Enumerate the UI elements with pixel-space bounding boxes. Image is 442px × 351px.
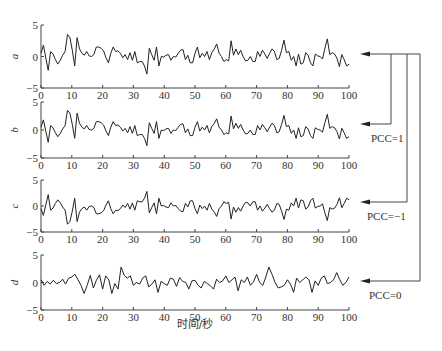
series-line-b (41, 110, 349, 145)
x-tick-label: 40 (159, 89, 171, 101)
x-tick-label: 90 (313, 159, 325, 171)
x-tick-label: 40 (159, 233, 171, 245)
y-tick-label: 0 (33, 277, 39, 289)
y-tick-label: 5 (33, 249, 39, 261)
y-tick-label: 5 (33, 174, 39, 186)
x-tick-label: 0 (38, 311, 44, 323)
pcc-label-1: PCC=1 (371, 132, 404, 144)
y-tick-label: −5 (26, 226, 38, 238)
x-tick-label: 80 (282, 89, 294, 101)
x-axis-title: 时间/秒 (177, 317, 214, 331)
x-tick-label: 40 (159, 311, 171, 323)
pcc-comparison-figure: 50−50102030405060708090100a50−5010203040… (0, 0, 442, 351)
panel-d: 50−50102030405060708090100d (8, 249, 358, 323)
x-tick-label: 10 (66, 311, 78, 323)
arrow-icon (360, 52, 370, 57)
x-tick-label: 90 (313, 89, 325, 101)
series-line-d (41, 267, 349, 293)
x-tick-label: 90 (313, 311, 325, 323)
panel-c: 50−50102030405060708090100c (8, 174, 358, 245)
panel-a: 50−50102030405060708090100a (8, 19, 358, 101)
x-tick-label: 100 (341, 159, 358, 171)
x-tick-label: 100 (341, 311, 358, 323)
x-tick-label: 80 (282, 159, 294, 171)
panel-label-d: d (8, 279, 20, 285)
panel-b: 50−50102030405060708090100b (8, 96, 358, 171)
x-tick-label: 100 (341, 233, 358, 245)
x-tick-label: 80 (282, 233, 294, 245)
x-tick-label: 60 (220, 311, 232, 323)
x-tick-label: 60 (220, 89, 232, 101)
x-tick-label: 40 (159, 159, 171, 171)
x-tick-label: 20 (97, 311, 109, 323)
arrow-icon (360, 122, 370, 127)
x-tick-label: 60 (220, 233, 232, 245)
x-tick-label: 100 (341, 89, 358, 101)
y-tick-label: −5 (26, 304, 38, 316)
x-tick-label: 20 (97, 233, 109, 245)
arrow-icon (360, 200, 370, 205)
y-tick-label: 0 (33, 200, 39, 212)
y-tick-label: 5 (33, 19, 39, 31)
x-tick-label: 0 (38, 89, 44, 101)
pcc-label-2: PCC=−1 (367, 210, 406, 222)
arrow-icon (360, 279, 370, 284)
x-tick-label: 70 (251, 159, 263, 171)
x-tick-label: 0 (38, 233, 44, 245)
x-tick-label: 10 (66, 89, 78, 101)
x-tick-label: 50 (190, 89, 202, 101)
y-tick-label: −5 (26, 152, 38, 164)
x-tick-label: 80 (282, 311, 294, 323)
pcc-connectors (364, 54, 420, 281)
x-tick-label: 70 (251, 311, 263, 323)
pcc-label-3: PCC=0 (369, 289, 402, 301)
x-tick-label: 70 (251, 89, 263, 101)
x-tick-label: 30 (128, 311, 140, 323)
x-tick-label: 50 (190, 233, 202, 245)
x-tick-label: 50 (190, 159, 202, 171)
y-tick-label: 5 (33, 96, 39, 108)
x-tick-label: 0 (38, 159, 44, 171)
x-tick-label: 90 (313, 233, 325, 245)
x-tick-label: 30 (128, 89, 140, 101)
x-tick-label: 30 (128, 233, 140, 245)
x-tick-label: 10 (66, 233, 78, 245)
y-tick-label: −5 (26, 82, 38, 94)
panel-label-c: c (8, 203, 20, 208)
x-tick-label: 60 (220, 159, 232, 171)
panel-label-b: b (8, 127, 20, 133)
x-tick-label: 30 (128, 159, 140, 171)
x-tick-label: 70 (251, 233, 263, 245)
series-line-a (41, 35, 349, 75)
x-tick-label: 20 (97, 159, 109, 171)
series-line-c (41, 191, 349, 224)
x-tick-label: 20 (97, 89, 109, 101)
y-tick-label: 0 (33, 51, 39, 63)
panel-label-a: a (8, 53, 20, 59)
x-tick-label: 10 (66, 159, 78, 171)
y-tick-label: 0 (33, 124, 39, 136)
